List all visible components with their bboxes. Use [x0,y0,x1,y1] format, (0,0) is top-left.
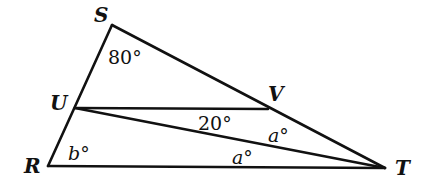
geometry-diagram: S U R V T 80° 20° a° a° b° [0,0,427,188]
angle-label-S: 80° [108,46,142,68]
angle-label-b: b° [68,142,90,164]
angle-label-a-lower: a° [232,146,253,168]
segment-RT [48,166,385,168]
segment-UV [75,108,268,109]
vertex-label-S: S [94,3,108,27]
vertex-label-T: T [395,156,412,180]
angle-label-20: 20° [198,112,232,134]
vertex-label-R: R [23,154,41,178]
triangle-figure: S U R V T 80° 20° a° a° b° [0,0,427,188]
vertex-label-V: V [268,82,286,106]
vertex-label-U: U [50,91,69,115]
angle-label-a-upper: a° [268,124,289,146]
